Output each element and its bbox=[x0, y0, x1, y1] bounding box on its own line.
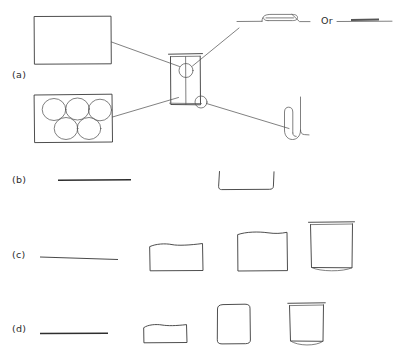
panel-d-stage-tall-box bbox=[217, 304, 250, 344]
u-tube-detail bbox=[285, 97, 310, 140]
blank-rectangular-plate bbox=[35, 16, 112, 64]
panel-c-stage-short-box bbox=[150, 244, 203, 271]
central-vessel bbox=[169, 54, 208, 108]
flat-rule-b bbox=[58, 180, 131, 181]
panel-label-a: (a) bbox=[12, 69, 26, 80]
panel-label-d: (d) bbox=[12, 323, 26, 334]
panel-d-group bbox=[40, 303, 325, 345]
or-label: Or bbox=[321, 15, 333, 26]
panel-d-stage-tall-vessel bbox=[288, 303, 326, 345]
figure-root: Or bbox=[0, 0, 395, 362]
panel-c-stage-tall-vessel bbox=[309, 222, 355, 271]
panel-c-stage-square-box bbox=[238, 232, 288, 271]
panel-d-stage-short-box bbox=[144, 325, 187, 343]
folded-strip-detail bbox=[237, 14, 310, 21]
panel-c-group bbox=[40, 222, 355, 271]
plain-strip-detail bbox=[337, 18, 392, 21]
open-channel-profile bbox=[219, 172, 274, 190]
panel-label-b: (b) bbox=[12, 174, 26, 185]
panel-b-group bbox=[58, 172, 274, 190]
technical-line-diagram: Or bbox=[0, 0, 395, 362]
five-well-plate bbox=[35, 94, 113, 142]
panel-a-group: Or bbox=[35, 14, 393, 142]
panel-label-c: (c) bbox=[12, 249, 26, 260]
panel-c-stage-flat-line bbox=[40, 257, 118, 260]
